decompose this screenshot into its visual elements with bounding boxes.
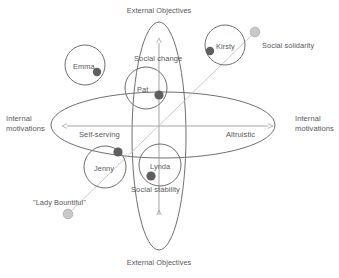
person-label-lynda: Lynda — [150, 162, 170, 171]
position-dot-pat — [154, 90, 163, 99]
position-dot-lynda — [146, 171, 155, 180]
right-side-label-line2: motivations — [295, 124, 334, 134]
left-side-label-line2: motivations — [6, 124, 45, 134]
left-side-label-line1: Internal — [6, 114, 32, 124]
horizontal-ellipse — [51, 92, 275, 158]
axis-label-social-change: Social change — [134, 54, 182, 63]
bottom-axis-label: External Objectives — [99, 258, 219, 267]
annotation-lady-bountiful: "Lady Bountiful" — [33, 198, 86, 207]
person-label-pat: Pat — [137, 85, 148, 94]
axis-label-altruistic: Altruistic — [226, 130, 255, 139]
position-dot-jenny — [113, 147, 122, 156]
lady-bountiful-marker — [63, 209, 73, 219]
annotation-social-solidarity: Social solidarity — [262, 41, 314, 50]
position-dot-kirsty — [206, 47, 214, 55]
axis-label-self-serving: Self-serving — [79, 130, 120, 139]
person-label-emma: Emma — [73, 62, 95, 71]
person-label-jenny: Jenny — [94, 164, 114, 173]
top-axis-label: External Objectives — [99, 6, 219, 15]
axis-label-social-stability: Social stability — [131, 185, 180, 194]
right-side-label-line1: Internal — [295, 114, 321, 124]
person-label-kirsty: Kirsty — [216, 42, 235, 51]
diagram-canvas: External Objectives External Objectives … — [0, 0, 339, 278]
social-solidarity-marker — [250, 27, 260, 37]
